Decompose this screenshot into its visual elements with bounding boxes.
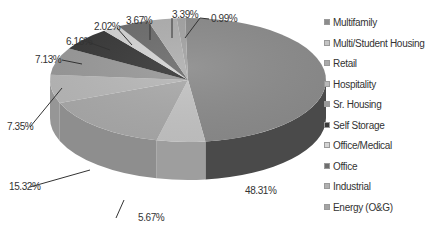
data-label-sr-housing: 7.13% <box>35 54 62 65</box>
legend-swatch-icon <box>324 60 330 66</box>
legend-item-retail: Retail <box>324 56 357 70</box>
legend-item-multi-student-housing: Multi/Student Housing <box>324 36 425 50</box>
pie-side-1 <box>157 140 206 180</box>
data-label-retail: 15.32% <box>9 181 41 192</box>
legend-item-energy: Energy (O&G) <box>324 200 393 214</box>
legend-swatch-icon <box>324 40 330 46</box>
legend-swatch-icon <box>324 81 330 87</box>
legend-swatch-icon <box>324 204 330 210</box>
legend-item-office-medical: Office/Medical <box>324 138 392 152</box>
data-label-industrial: 3.39% <box>172 9 199 20</box>
data-label-multi-student-housing: 5.67% <box>138 212 165 223</box>
legend-item-multifamily: Multifamily <box>324 15 377 29</box>
legend-swatch-icon <box>324 163 330 169</box>
data-label-hospitality: 7.35% <box>7 121 34 132</box>
legend-swatch-icon <box>324 19 330 25</box>
legend-swatch-icon <box>324 183 330 189</box>
legend-item-self-storage: Self Storage <box>324 118 384 132</box>
legend-swatch-icon <box>324 122 330 128</box>
data-label-energy: 0.99% <box>211 13 238 24</box>
legend-item-industrial: Industrial <box>324 179 371 193</box>
data-label-office: 3.67% <box>126 15 153 26</box>
leader-line <box>116 200 124 218</box>
legend-swatch-icon <box>324 142 330 148</box>
data-label-office-medical: 2.02% <box>94 21 121 32</box>
legend-item-hospitality: Hospitality <box>324 77 376 91</box>
legend-item-office: Office <box>324 159 357 173</box>
data-label-self-storage: 6.16% <box>66 36 93 47</box>
legend-item-sr-housing: Sr. Housing <box>324 97 381 111</box>
data-label-multifamily: 48.31% <box>245 185 277 196</box>
legend-swatch-icon <box>324 101 330 107</box>
